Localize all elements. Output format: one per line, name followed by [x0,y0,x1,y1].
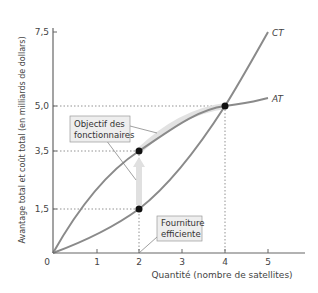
y-axis-title: Avantage total et coût total (en milliar… [18,36,27,243]
origin-label: 0 [44,257,50,267]
x-axis-title: Quantité (nombre de satellites) [151,270,292,280]
point-objectif [136,148,143,155]
y-tick-7-5: 7,5 [35,27,49,37]
x-tick-2: 2 [136,257,142,267]
y-tick-5-0: 5,0 [35,101,50,111]
chart: 0 1 2 3 4 5 7,5 5,0 3,5 1,5 Quantité (no… [0,0,318,293]
x-tick-4: 4 [222,257,228,267]
objectif-text-1: Objectif des [74,119,125,129]
y-tick-1-5: 1,5 [35,204,49,214]
fourniture-text-1: Fourniture [161,218,205,228]
fourniture-text-2: efficiente [161,229,201,239]
objectif-text-2: fonctionnaires [74,130,135,140]
ct-label: CT [272,28,285,38]
y-tick-3-5: 3,5 [35,146,49,156]
point-efficient [136,206,143,213]
at-label: AT [271,94,285,104]
gap-arrow-head [133,157,145,167]
fourniture-leader [139,237,157,253]
x-tick-5: 5 [265,257,271,267]
x-tick-1: 1 [94,257,100,267]
point-intersection [222,103,229,110]
x-tick-3: 3 [179,257,185,267]
gap-arrow-shaft [136,165,142,205]
at-highlight-band [139,106,225,151]
